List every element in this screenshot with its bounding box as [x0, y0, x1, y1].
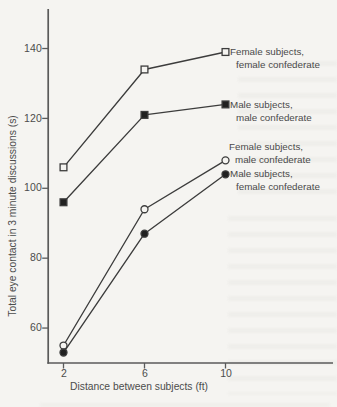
open-square-marker	[60, 164, 67, 171]
series-label-male-female: Male subjects, female confederate	[230, 167, 320, 193]
series-label-line: female confederate	[230, 180, 320, 193]
series-label-line: male confederate	[230, 111, 312, 124]
series-label-line: female confederate	[230, 58, 320, 71]
open-circle-marker	[222, 157, 229, 164]
figure: 60 80 100 120 140 2 6 10 Distance betwee…	[0, 0, 337, 407]
series-label-line: Male subjects,	[230, 98, 312, 111]
series-label-male-male: Male subjects, male confederate	[230, 98, 312, 124]
series-label-line: male confederate	[229, 153, 311, 166]
open-square-marker	[222, 49, 229, 56]
series-label-line: Male subjects,	[230, 167, 320, 180]
filled-circle-marker	[141, 230, 148, 237]
series-filled-circle	[60, 171, 229, 356]
open-square-marker	[141, 66, 148, 73]
filled-square-marker	[141, 112, 148, 119]
series-open-square	[60, 49, 229, 171]
series-label-female-female: Female subjects, female confederate	[230, 45, 320, 71]
series-label-line: Female subjects,	[229, 140, 311, 153]
filled-square-marker	[60, 199, 67, 206]
open-circle-marker	[141, 206, 148, 213]
x-tick-label: 2	[52, 367, 76, 379]
series-label-female-male: Female subjects, male confederate	[229, 140, 311, 166]
y-tick-label: 140	[16, 42, 42, 54]
filled-square-marker	[222, 101, 229, 108]
filled-circle-marker	[222, 171, 229, 178]
x-tick-label: 10	[214, 367, 238, 379]
series-label-line: Female subjects,	[230, 45, 320, 58]
x-axis-title: Distance between subjects (ft)	[36, 381, 242, 392]
filled-circle-marker	[60, 349, 67, 356]
y-axis-title: Total eye contact in 3 minute discussion…	[7, 95, 21, 337]
x-tick-label: 6	[133, 367, 157, 379]
